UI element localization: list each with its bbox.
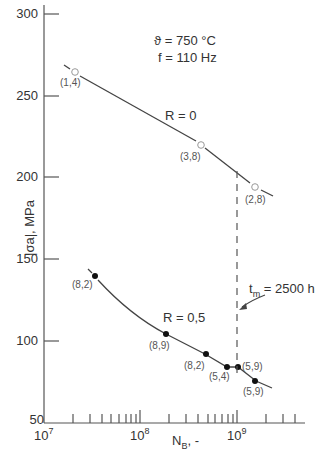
- x-axis-ticks: [73, 410, 295, 423]
- point-label: (2,8): [245, 195, 266, 205]
- y-tick-label: 200: [0, 170, 38, 183]
- point-label: (5,9): [243, 387, 264, 397]
- y-axis-ticks: [44, 14, 59, 341]
- series-r0-line: [64, 65, 273, 196]
- point-label: (1,4): [60, 78, 81, 88]
- point-label: (3,8): [180, 152, 201, 162]
- x-axis-label: NB, -: [172, 434, 199, 451]
- data-point: [198, 142, 205, 149]
- y-tick-label: 50: [0, 413, 44, 426]
- data-point: [92, 273, 98, 279]
- data-point: [203, 351, 209, 357]
- temperature-annotation: ϑ = 750 °C: [154, 34, 216, 47]
- point-label: (5,9): [242, 362, 263, 372]
- data-point: [72, 69, 79, 76]
- point-label: (8,2): [72, 280, 93, 290]
- y-tick-label: 250: [0, 89, 38, 102]
- data-point: [252, 378, 258, 384]
- x-tick-label: 109: [227, 427, 246, 442]
- frequency-annotation: f = 110 Hz: [158, 51, 217, 64]
- x-tick-label: 107: [34, 427, 53, 442]
- point-label: (8,2): [184, 361, 205, 371]
- y-tick-label: 100: [0, 334, 38, 347]
- data-point: [252, 184, 259, 191]
- chart-plot-area: [0, 0, 319, 451]
- x-tick-label: 108: [130, 427, 149, 442]
- y-tick-label: 300: [0, 7, 38, 20]
- point-label: (8,9): [149, 341, 170, 351]
- series-label-r05: R = 0,5: [163, 311, 205, 324]
- data-point: [163, 331, 169, 337]
- series-label-r0: R = 0: [165, 109, 196, 122]
- y-axis-label: |σa|, MPa: [22, 200, 37, 256]
- data-point: [235, 364, 241, 370]
- time-marker-annotation: tm = 2500 h: [249, 282, 315, 299]
- data-point: [224, 364, 230, 370]
- point-label: (5,4): [209, 372, 230, 382]
